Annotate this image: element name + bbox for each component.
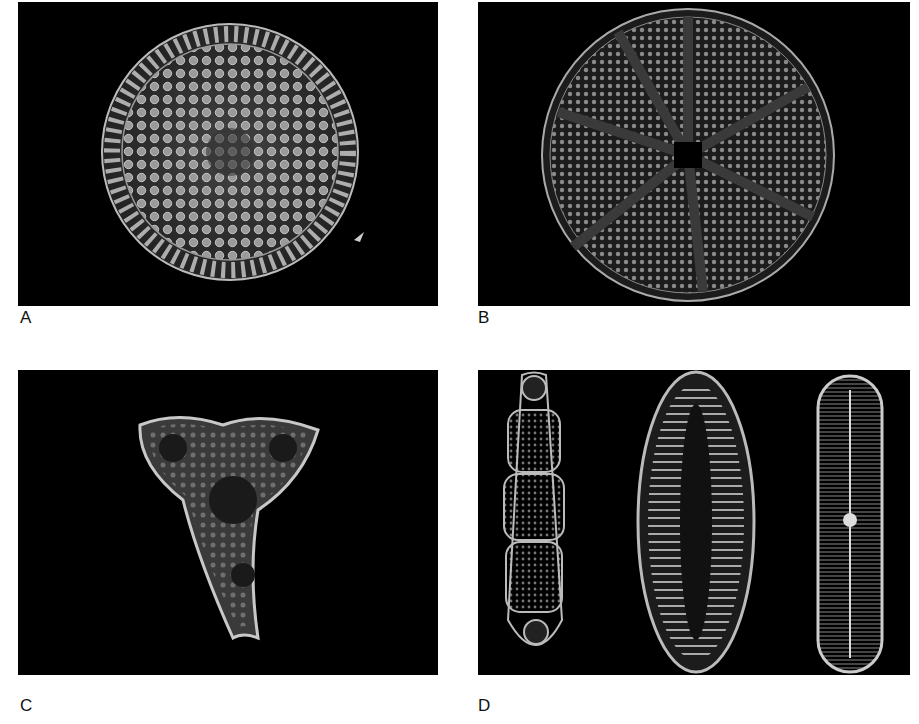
- elongate-diatom: [818, 376, 882, 672]
- panel-label-a: A: [20, 308, 31, 328]
- panel-label-d: D: [478, 696, 490, 716]
- pennate-diatoms-d: [478, 370, 910, 675]
- segmented-diatom: [504, 373, 564, 646]
- centric-diatom-a: [18, 2, 438, 306]
- triangular-diatom-c: [18, 370, 438, 675]
- elliptical-diatom: [638, 372, 754, 672]
- panel-c-image: [18, 370, 438, 675]
- panel-a-image: [18, 2, 438, 306]
- panel-label-c: C: [20, 696, 32, 716]
- panel-label-b: B: [478, 308, 489, 328]
- centric-diatom-b: [478, 2, 910, 306]
- panel-b-image: [478, 2, 910, 306]
- panel-d-image: [478, 370, 910, 675]
